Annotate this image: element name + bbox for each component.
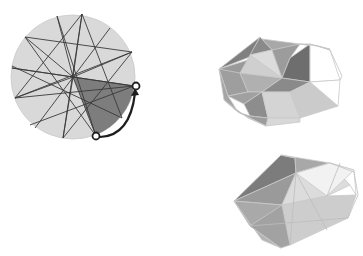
folded-shape-top: [219, 37, 342, 126]
start-vertex-marker: [93, 133, 100, 140]
diagram-canvas: [0, 0, 363, 256]
end-vertex-marker: [133, 83, 140, 90]
folded-shape-bottom: [234, 155, 358, 248]
triangulated-disk: [11, 14, 140, 140]
